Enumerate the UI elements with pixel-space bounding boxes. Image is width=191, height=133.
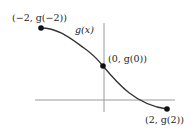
graph-canvas: (−2, g(−2)) g(x) (0, g(0)) (2, g(2)) xyxy=(0,0,191,133)
point-center xyxy=(100,63,106,69)
label-right-point: (2, g(2)) xyxy=(145,114,184,125)
label-left-point: (−2, g(−2)) xyxy=(12,12,67,23)
point-left xyxy=(38,25,44,31)
point-right xyxy=(164,106,170,112)
label-center-point: (0, g(0)) xyxy=(108,53,147,64)
label-curve: g(x) xyxy=(75,24,94,35)
function-graph-figure: (−2, g(−2)) g(x) (0, g(0)) (2, g(2)) xyxy=(0,0,191,133)
